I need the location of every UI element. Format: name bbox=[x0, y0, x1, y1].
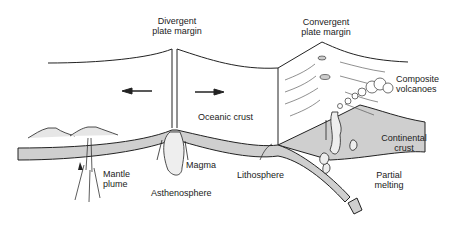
slab-fragment bbox=[348, 198, 362, 214]
label-divergent: Divergent plate margin bbox=[145, 16, 209, 36]
label-magma: Magma bbox=[186, 160, 216, 170]
label-asthenosphere: Asthenosphere bbox=[151, 188, 212, 198]
label-mantle-line1: Mantle bbox=[103, 169, 130, 179]
label-divergent-line1: Divergent bbox=[145, 16, 209, 26]
vent-top bbox=[318, 56, 326, 60]
label-composite-volcanoes: Composite volcanoes bbox=[396, 74, 439, 94]
label-composite-line1: Composite bbox=[396, 74, 439, 84]
label-continental-crust: Continental crust bbox=[374, 133, 434, 153]
label-lithosphere: Lithosphere bbox=[237, 170, 284, 180]
label-continental-line1: Continental bbox=[374, 133, 434, 143]
label-convergent-line1: Convergent bbox=[294, 17, 358, 27]
label-divergent-line2: plate margin bbox=[145, 26, 209, 36]
plate-tectonics-diagram: Divergent plate margin Convergent plate … bbox=[0, 0, 454, 227]
label-convergent-line2: plate margin bbox=[294, 27, 358, 37]
magma-chamber bbox=[164, 132, 184, 175]
divergence-arrows bbox=[122, 88, 224, 95]
label-partial-line2: melting bbox=[364, 180, 414, 190]
label-composite-line2: volcanoes bbox=[396, 84, 439, 94]
seamount-1 bbox=[28, 128, 75, 138]
mountain-ridge bbox=[278, 42, 408, 68]
label-partial-melting: Partial melting bbox=[364, 170, 414, 190]
label-convergent: Convergent plate margin bbox=[294, 17, 358, 37]
label-continental-line2: crust bbox=[374, 143, 434, 153]
label-mantle-line2: plume bbox=[103, 179, 130, 189]
vent-mid bbox=[320, 75, 330, 80]
partial-melt-blob-1 bbox=[350, 140, 357, 150]
ocean-surface-left bbox=[48, 49, 172, 63]
label-partial-line1: Partial bbox=[364, 170, 414, 180]
seamount-2 bbox=[70, 127, 118, 136]
label-mantle-plume: Mantle plume bbox=[103, 169, 130, 189]
label-oceanic-crust: Oceanic crust bbox=[198, 112, 253, 122]
partial-melt-blob-3 bbox=[320, 153, 329, 164]
ocean-surface-right bbox=[177, 49, 278, 68]
